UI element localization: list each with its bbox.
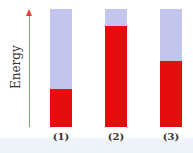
bar-fill <box>160 61 182 127</box>
bar-label-3: (3) <box>156 131 186 142</box>
energy-bar-1 <box>50 9 72 127</box>
bar-fill <box>105 26 127 127</box>
energy-axis-line <box>29 14 30 127</box>
bar-label-1: (1) <box>46 131 76 142</box>
energy-bar-2 <box>105 9 127 127</box>
arrow-up-icon <box>26 9 32 16</box>
bar-fill <box>50 89 72 127</box>
energy-bar-3 <box>160 9 182 127</box>
axis-label: Energy <box>9 49 23 89</box>
bar-label-2: (2) <box>101 131 131 142</box>
